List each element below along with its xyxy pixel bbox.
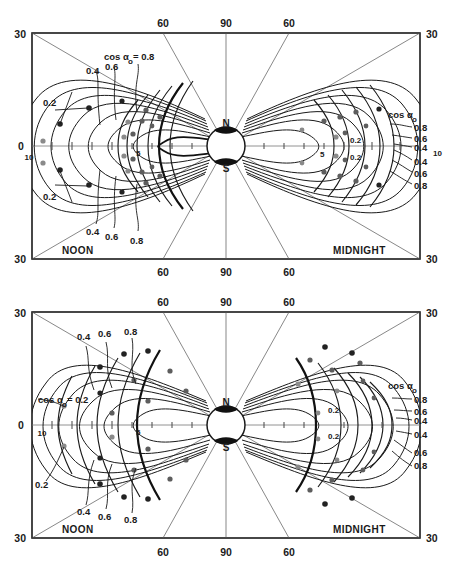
bottom-axis-label-2: 60 [283, 546, 295, 558]
left-legend-equals: = 0.8 [133, 51, 154, 62]
top-axis-label-0: 60 [157, 17, 169, 29]
corner-label-top-right: 30 [426, 307, 438, 319]
left-upper-label-2: 0.8 [124, 326, 137, 337]
left-lower-label-0: 0.2 [35, 479, 48, 490]
south-pole-label: S [223, 442, 230, 453]
right-legend-title: cos α [388, 109, 413, 120]
top-axis-label-2: 60 [283, 17, 295, 29]
corner-label-bottom-right: 30 [426, 532, 438, 544]
bottom-axis-label-1: 90 [220, 546, 232, 558]
inner-label-1: 0.2 [328, 432, 340, 441]
left-lower-label-0: 0.2 [43, 191, 56, 202]
left-legend-title: cos α [38, 394, 63, 405]
top-axis-label-2: 60 [283, 296, 295, 308]
top-axis-label-1: 90 [220, 296, 232, 308]
data-markers-dayside [40, 98, 162, 194]
inner-label-0: 0.2 [350, 136, 362, 145]
bottom-axis-label-0: 60 [157, 546, 169, 558]
right-upper-label-2: 0.4 [414, 415, 428, 426]
sector-label-midnight: MIDNIGHT [333, 245, 386, 256]
right-upper-label-0: 0.8 [414, 394, 427, 405]
north-pole-label: N [222, 397, 229, 408]
left-lower-label-1: 0.4 [77, 506, 91, 517]
left-legend-equals: = 0.2 [67, 394, 88, 405]
right-lower-label-1: 0.6 [414, 168, 427, 179]
right-lower-label-2: 0.8 [414, 460, 427, 471]
left-lower-label-2: 0.6 [105, 231, 118, 242]
right-lower-label-0: 0.4 [414, 156, 428, 167]
radial-mid-tick-label-right: 5 [320, 150, 325, 159]
left-upper-label-1: 0.4 [86, 65, 100, 76]
panel-bottom: N S 5 0 10 30 30 30 30 60 90 60 60 90 60… [0, 288, 457, 565]
top-axis-label-0: 60 [157, 296, 169, 308]
left-lower-label-2: 0.6 [98, 511, 111, 522]
right-upper-label-2: 0.4 [414, 142, 428, 153]
sector-label-noon: NOON [62, 524, 94, 535]
inner-label-1: 0.2 [350, 153, 362, 162]
corner-label-bottom-left: 30 [14, 253, 26, 265]
left-upper-label-2: 0.6 [105, 61, 118, 72]
left-upper-label-1: 0.6 [98, 328, 111, 339]
left-lower-label-3: 0.8 [130, 235, 143, 246]
right-lower-label-0: 0.4 [414, 429, 428, 440]
left-legend: cos α o = 0.2 0.4 0.6 0.8 0.2 0.4 0.6 0.… [35, 326, 137, 525]
right-legend: cos α o 0.8 0.6 0.4 0.4 0.6 0.8 0.2 0.2 [328, 380, 428, 471]
corner-label-bottom-right: 30 [426, 253, 438, 265]
bottom-axis-label-0: 60 [157, 266, 169, 278]
radial-mid-tick-label-left: 5 [136, 149, 141, 158]
left-upper-label-0: 0.4 [77, 331, 91, 342]
bottom-axis-label-2: 60 [283, 266, 295, 278]
axis-origin-label: 0 [18, 140, 24, 152]
left-lower-label-3: 0.8 [124, 514, 137, 525]
corner-label-bottom-left: 30 [14, 532, 26, 544]
south-pole-label: S [223, 163, 230, 174]
data-markers-nightside [300, 106, 382, 187]
axis-right-edge-label: 10 [433, 149, 442, 158]
left-lower-label-1: 0.4 [86, 226, 100, 237]
corner-label-top-left: 30 [14, 307, 26, 319]
corner-label-top-right: 30 [426, 28, 438, 40]
top-axis-label-1: 90 [220, 17, 232, 29]
axis-origin-label: 0 [18, 419, 24, 431]
sector-label-midnight: MIDNIGHT [333, 524, 386, 535]
right-lower-label-1: 0.6 [414, 447, 427, 458]
sector-label-noon: NOON [62, 245, 94, 256]
bottom-axis-label-1: 90 [220, 266, 232, 278]
left-upper-label-0: 0.2 [43, 97, 56, 108]
radial-mid-tick-label-left: 5 [136, 428, 141, 437]
right-lower-label-2: 0.8 [414, 180, 427, 191]
north-pole-label: N [222, 118, 229, 129]
panel-top: N S 5 5 0 10 10 30 30 30 30 60 90 60 60 … [0, 0, 457, 288]
right-legend-title: cos α [388, 380, 413, 391]
axis-origin-sub-label: 10 [38, 429, 47, 438]
inner-label-0: 0.2 [328, 406, 340, 415]
axis-origin-sub-label: 10 [25, 153, 34, 162]
corner-label-top-left: 30 [14, 28, 26, 40]
right-upper-label-0: 0.8 [414, 122, 427, 133]
